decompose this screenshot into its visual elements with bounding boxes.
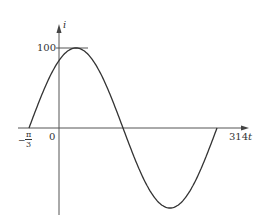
y-axis-arrow-icon	[57, 24, 62, 33]
phase-numerator: π	[26, 130, 31, 139]
y-axis-label: i	[63, 20, 66, 30]
waveform-plot	[0, 0, 262, 215]
peak-value-label: 100	[37, 43, 56, 53]
phase-sign: −	[18, 135, 26, 145]
phase-denominator: 3	[26, 140, 31, 149]
x-axis-label-var: t	[248, 131, 252, 142]
x-axis-label: 314t	[229, 131, 252, 142]
x-axis-label-coef: 314	[229, 131, 248, 142]
x-axis-arrow-icon	[241, 126, 249, 131]
origin-label: 0	[49, 132, 55, 142]
